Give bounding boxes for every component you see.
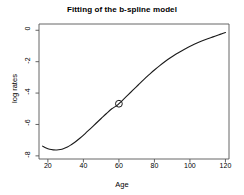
y-tick-label: -8 (24, 145, 31, 163)
y-tick-label: -6 (24, 114, 31, 132)
x-tick-label: 80 (142, 162, 166, 169)
x-tick-label: 100 (178, 162, 202, 169)
x-tick-label: 60 (107, 162, 131, 169)
x-tick-label: 20 (36, 162, 60, 169)
fitted-curve (43, 32, 226, 150)
data-series-group (43, 32, 226, 150)
y-axis-ticks (36, 30, 40, 156)
y-axis-title: log rates (10, 59, 19, 119)
x-axis-title: Age (0, 180, 244, 189)
x-tick-label: 40 (71, 162, 95, 169)
axis-box (39, 24, 229, 159)
x-tick-label: 120 (213, 162, 237, 169)
chart-canvas: Fitting of the b-spline model Age log ra… (0, 0, 244, 195)
y-tick-label: -2 (24, 51, 31, 69)
y-tick-label: -4 (24, 83, 31, 101)
y-tick-label: 0 (24, 20, 31, 38)
